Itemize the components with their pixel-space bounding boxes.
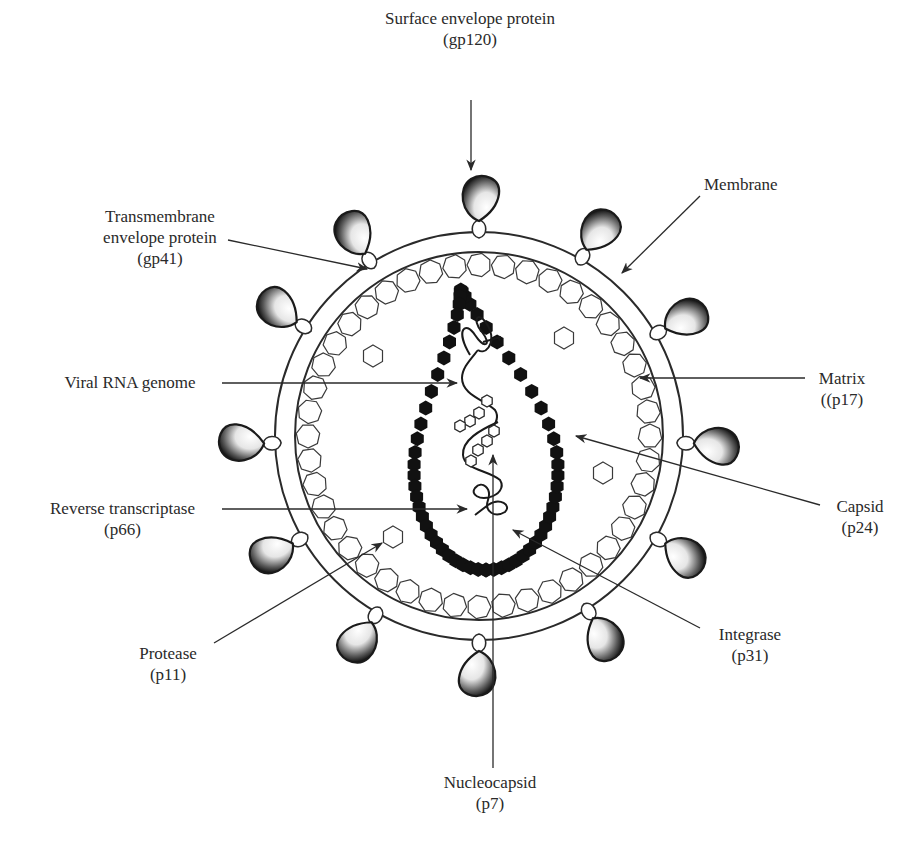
integrase-name: Integrase — [700, 624, 800, 645]
gp41-line1: Transmembrane — [70, 206, 250, 227]
rt-name: Reverse transcriptase — [25, 498, 220, 519]
label-matrix: Matrix ((p17) — [802, 368, 882, 410]
capsid-name: Capsid — [820, 496, 900, 517]
integrase-code: (p31) — [700, 645, 800, 666]
label-membrane: Membrane — [704, 174, 778, 195]
gp41-code: (gp41) — [70, 248, 250, 269]
matrix-name: Matrix — [802, 368, 882, 389]
label-gp41: Transmembrane envelope protein (gp41) — [70, 206, 250, 269]
rt-code: (p66) — [25, 519, 220, 540]
label-integrase: Integrase (p31) — [700, 624, 800, 666]
gp41-line2: envelope protein — [70, 227, 250, 248]
label-gp120: Surface envelope protein (gp120) — [375, 8, 565, 50]
protease-code: (p11) — [118, 664, 218, 685]
rna-name: Viral RNA genome — [40, 372, 220, 393]
label-capsid: Capsid (p24) — [820, 496, 900, 538]
label-nucleocapsid: Nucleocapsid (p7) — [420, 772, 560, 814]
membrane-arrow — [622, 196, 700, 273]
hiv-virion-diagram — [0, 0, 912, 842]
gp120-name: Surface envelope protein — [375, 8, 565, 29]
protease-name: Protease — [118, 643, 218, 664]
label-reverse-transcriptase: Reverse transcriptase (p66) — [25, 498, 220, 540]
gp120-code: (gp120) — [375, 29, 565, 50]
capsid-code: (p24) — [820, 517, 900, 538]
matrix-code: ((p17) — [802, 389, 882, 410]
nucleocapsid-code: (p7) — [420, 793, 560, 814]
label-protease: Protease (p11) — [118, 643, 218, 685]
membrane-name: Membrane — [704, 174, 778, 195]
outer-membrane — [275, 232, 683, 640]
label-rna: Viral RNA genome — [40, 372, 220, 393]
nucleocapsid-name: Nucleocapsid — [420, 772, 560, 793]
capsid-cone — [408, 283, 565, 578]
